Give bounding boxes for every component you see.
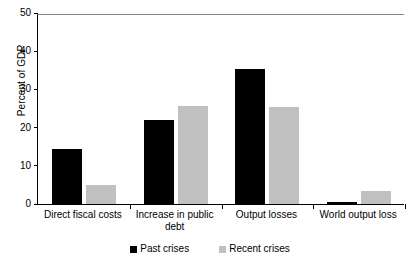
black-square-swatch	[130, 246, 137, 253]
plot-area: 01020304050	[37, 14, 404, 205]
x-axis-label: World output loss	[312, 209, 404, 221]
x-axis-label: Direct fiscal costs	[37, 209, 129, 221]
y-tick-label: 20	[20, 121, 31, 134]
legend-label: Recent crises	[229, 243, 290, 255]
x-tick-mark	[405, 204, 406, 209]
x-axis-labels: Direct fiscal costsIncrease in public de…	[37, 209, 404, 239]
y-tick-label: 10	[20, 159, 31, 172]
bar	[235, 69, 265, 204]
bar	[361, 191, 391, 204]
legend-label: Past crises	[140, 243, 189, 255]
x-axis-label: Output losses	[221, 209, 313, 221]
bars-layer	[38, 15, 404, 204]
bar	[178, 106, 208, 204]
bar	[269, 107, 299, 204]
bar-chart: Percent of GDP 01020304050 Direct fiscal…	[0, 0, 420, 265]
x-axis-label: Increase in public debt	[129, 209, 221, 233]
y-tick-label: 50	[20, 6, 31, 19]
bar	[327, 202, 357, 204]
y-tick-label: 40	[20, 44, 31, 57]
y-tick-label: 30	[20, 82, 31, 95]
y-axis-title: Percent of GDP	[16, 26, 27, 136]
gray-square-swatch	[219, 246, 226, 253]
bar	[52, 149, 82, 204]
bar	[86, 185, 116, 204]
legend-item: Recent crises	[219, 243, 290, 255]
y-tick-mark	[34, 13, 38, 14]
legend-item: Past crises	[130, 243, 189, 255]
y-tick-label: 0	[25, 197, 31, 210]
chart-legend: Past crisesRecent crises	[0, 243, 420, 255]
bar	[144, 120, 174, 204]
